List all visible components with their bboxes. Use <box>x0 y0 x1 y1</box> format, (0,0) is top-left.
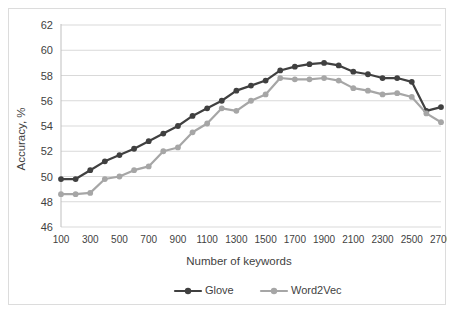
data-point <box>58 191 64 197</box>
data-point <box>146 138 152 144</box>
x-tick-label: 1900 <box>313 234 336 245</box>
data-point <box>365 88 371 94</box>
data-point <box>160 131 166 137</box>
x-tick-label: 2100 <box>342 234 365 245</box>
legend-item-glove[interactable]: Glove <box>175 284 234 296</box>
y-tick-label: 48 <box>41 196 53 208</box>
x-tick-label: 100 <box>53 234 70 245</box>
x-tick-label: 1500 <box>254 234 277 245</box>
data-point <box>409 79 415 85</box>
data-point <box>365 71 371 77</box>
x-tick-label: 1700 <box>284 234 307 245</box>
data-point <box>233 108 239 114</box>
data-point <box>307 76 313 82</box>
data-point <box>321 60 327 66</box>
data-point <box>307 61 313 67</box>
data-point <box>233 88 239 94</box>
y-tick-label: 52 <box>41 145 53 157</box>
data-point <box>380 92 386 98</box>
data-point <box>117 152 123 158</box>
data-point <box>219 98 225 104</box>
x-tick-label: 2300 <box>371 234 394 245</box>
data-point <box>277 75 283 81</box>
data-point <box>321 75 327 81</box>
series-glove <box>58 60 444 182</box>
legend-item-word2vec[interactable]: Word2Vec <box>261 284 342 296</box>
x-axis-title: Number of keywords <box>186 255 292 267</box>
chart-legend: GloveWord2Vec <box>175 284 342 296</box>
data-point <box>175 145 181 151</box>
data-point <box>146 164 152 170</box>
y-tick-label: 50 <box>41 171 53 183</box>
data-point <box>336 63 342 69</box>
y-tick-label: 58 <box>41 70 53 82</box>
data-point <box>263 92 269 98</box>
data-point <box>87 167 93 173</box>
x-tick-label: 1300 <box>225 234 248 245</box>
y-axis-tick-labels: 464850525456586062 <box>41 19 53 233</box>
data-point <box>73 191 79 197</box>
data-point <box>87 190 93 196</box>
data-point <box>438 119 444 125</box>
y-tick-label: 54 <box>41 120 53 132</box>
x-tick-label: 300 <box>82 234 99 245</box>
x-tick-label: 700 <box>140 234 157 245</box>
data-point <box>350 85 356 91</box>
data-point <box>117 174 123 180</box>
x-tick-label: 500 <box>111 234 128 245</box>
y-tick-label: 56 <box>41 95 53 107</box>
data-point <box>219 105 225 111</box>
data-point <box>394 90 400 96</box>
data-point <box>58 176 64 182</box>
data-point <box>380 75 386 81</box>
legend-label: Glove <box>205 284 234 296</box>
data-point <box>423 110 429 116</box>
data-point <box>204 121 210 127</box>
x-tick-label: 1100 <box>196 234 218 245</box>
x-tick-label: 2700 <box>430 234 447 245</box>
data-point <box>292 64 298 70</box>
data-point <box>263 78 269 84</box>
chart-figure: 464850525456586062 100300500700900110013… <box>8 8 446 305</box>
data-point <box>248 98 254 104</box>
x-axis-tick-labels: 1003005007009001100130015001700190021002… <box>53 234 447 245</box>
x-tick-label: 2500 <box>401 234 424 245</box>
data-point <box>336 78 342 84</box>
data-point <box>160 148 166 154</box>
data-point <box>175 123 181 129</box>
data-point <box>102 176 108 182</box>
data-point <box>73 176 79 182</box>
data-point <box>190 113 196 119</box>
data-point <box>204 105 210 111</box>
data-point <box>350 69 356 75</box>
data-point <box>394 75 400 81</box>
data-point <box>131 167 137 173</box>
data-point <box>190 129 196 135</box>
y-tick-label: 46 <box>41 221 53 233</box>
x-tick-label: 900 <box>170 234 187 245</box>
data-point <box>409 94 415 100</box>
y-tick-label: 60 <box>41 44 53 56</box>
series-word2vec <box>58 75 444 197</box>
y-tick-label: 62 <box>41 19 53 31</box>
gridlines-group <box>61 25 441 227</box>
data-point <box>102 158 108 164</box>
data-point <box>248 83 254 89</box>
data-point <box>438 104 444 110</box>
legend-swatch-marker <box>185 288 191 294</box>
y-axis-title: Accuracy, % <box>15 107 27 170</box>
legend-swatch-marker <box>271 288 277 294</box>
line-chart: 464850525456586062 100300500700900110013… <box>9 9 447 306</box>
data-point <box>131 146 137 152</box>
legend-label: Word2Vec <box>291 284 342 296</box>
data-point <box>292 76 298 82</box>
data-point <box>277 68 283 74</box>
